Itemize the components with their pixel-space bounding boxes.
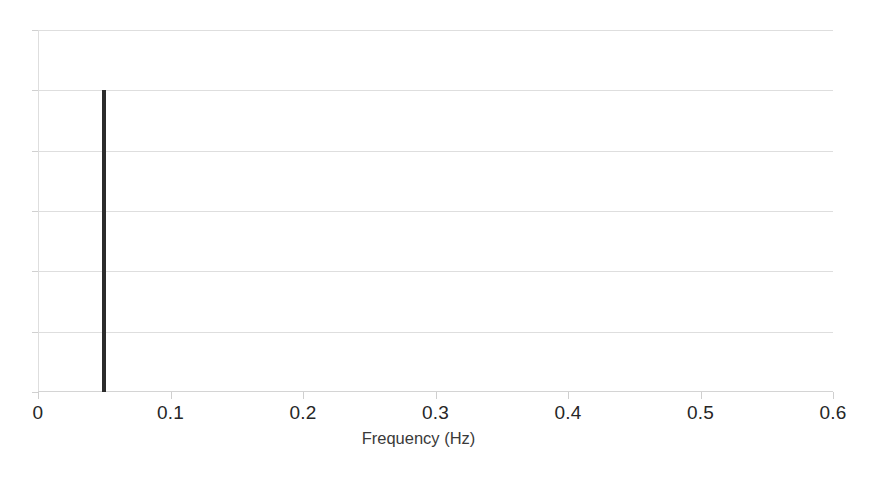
gridline-horizontal	[38, 30, 833, 31]
plot-area	[38, 30, 833, 392]
x-axis-tick-label: 0.2	[263, 401, 343, 425]
x-axis-tick	[38, 392, 39, 399]
gridline-horizontal	[38, 211, 833, 212]
x-axis-tick-label: 0.6	[793, 401, 873, 425]
x-axis-tick	[833, 392, 834, 399]
x-axis-title: Frequency (Hz)	[0, 428, 875, 448]
x-axis-tick	[303, 392, 304, 399]
x-axis-tick-label: 0.1	[131, 401, 211, 425]
x-axis-tick-label: 0.5	[661, 401, 741, 425]
gridline-horizontal	[38, 151, 833, 152]
x-axis-tick	[568, 392, 569, 399]
frequency-spectrum-chart: 0 0.1 0.2 0.3 0.4 0.5 0.6 Frequency (Hz)	[0, 0, 875, 480]
x-axis-tick-label: 0.3	[396, 401, 476, 425]
x-axis-tick-label: 0	[0, 401, 78, 425]
x-axis-tick-label: 0.4	[528, 401, 608, 425]
gridline-horizontal	[38, 332, 833, 333]
x-axis-tick	[701, 392, 702, 399]
gridline-horizontal	[38, 90, 833, 91]
x-axis-title-text: Frequency (Hz)	[362, 428, 476, 448]
x-axis-tick	[436, 392, 437, 399]
data-spike	[102, 90, 106, 392]
x-axis-tick	[171, 392, 172, 399]
gridline-horizontal	[38, 271, 833, 272]
